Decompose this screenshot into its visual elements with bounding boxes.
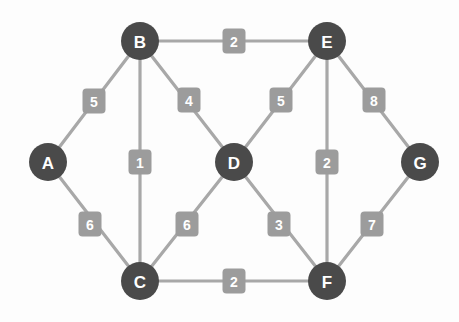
weight-value: 2: [323, 155, 331, 171]
node-label: G: [413, 154, 426, 173]
node-label: E: [321, 33, 332, 52]
edge-weight-b-c: 1: [129, 150, 152, 175]
edge-weight-a-c: 6: [79, 212, 102, 237]
node-label: D: [228, 154, 240, 173]
edge-weight-e-f: 2: [316, 150, 339, 175]
node-label: F: [322, 273, 332, 292]
edge-weight-c-d: 6: [176, 212, 199, 237]
edge-weight-d-e: 5: [270, 88, 293, 113]
node-label: C: [134, 273, 146, 292]
weight-value: 7: [368, 217, 376, 233]
graph-node-b[interactable]: B: [121, 22, 159, 60]
graph-node-f[interactable]: F: [308, 262, 346, 300]
graph-node-d[interactable]: D: [215, 143, 253, 181]
edge-weight-b-d: 4: [178, 88, 201, 113]
graph-node-a[interactable]: A: [29, 143, 67, 181]
graph-node-c[interactable]: C: [121, 262, 159, 300]
weight-value: 3: [275, 217, 283, 233]
node-label: A: [42, 154, 54, 173]
edge-weight-c-f: 2: [223, 269, 246, 294]
weight-value: 8: [370, 93, 378, 109]
edge-weight-d-f: 3: [268, 212, 291, 237]
weight-value: 4: [185, 93, 193, 109]
edge-weight-b-e: 2: [223, 29, 246, 54]
edge-weight-e-g: 8: [363, 88, 386, 113]
weight-value: 6: [183, 217, 191, 233]
weight-value: 2: [230, 274, 238, 290]
weight-value: 6: [86, 217, 94, 233]
edge-weight-a-b: 5: [83, 89, 106, 114]
weight-value: 5: [277, 93, 285, 109]
weight-value: 5: [90, 94, 98, 110]
graph-node-g[interactable]: G: [401, 143, 439, 181]
edge-weight-f-g: 7: [361, 212, 384, 237]
graph-node-e[interactable]: E: [308, 22, 346, 60]
nodes-layer: ABCDEFG: [29, 22, 439, 300]
graph-svg: ABCDEFG 562146253287: [0, 0, 459, 322]
node-label: B: [134, 33, 146, 52]
weight-value: 2: [230, 34, 238, 50]
weight-value: 1: [136, 155, 144, 171]
graph-diagram-canvas: ABCDEFG 562146253287: [0, 0, 459, 322]
